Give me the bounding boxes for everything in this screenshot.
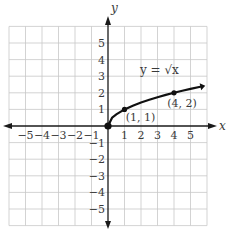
y-tick-label: −2 xyxy=(89,153,105,166)
curve-arrowhead-icon xyxy=(200,83,206,90)
x-tick-label: −3 xyxy=(50,129,66,142)
y-tick-label: 4 xyxy=(98,54,105,67)
x-tick-label: 2 xyxy=(138,129,145,142)
plotted-points: (1, 1)(4, 2) xyxy=(104,90,196,129)
y-tick-label: 2 xyxy=(98,87,105,100)
y-tick-label: −4 xyxy=(89,186,105,199)
data-point xyxy=(171,90,176,95)
x-tick-label: 4 xyxy=(171,129,178,142)
point-label: (4, 2) xyxy=(167,97,197,110)
sqrt-function-graph: −5−4−3−2−11234554321−1−2−3−4−5 (1, 1)(4,… xyxy=(0,0,226,229)
x-axis-right-arrow-icon xyxy=(208,123,217,129)
y-axis-label: y xyxy=(110,1,118,15)
x-tick-label: −4 xyxy=(34,129,50,142)
data-point xyxy=(104,122,111,129)
y-axis-down-arrow-icon xyxy=(105,221,111,229)
y-tick-label: 3 xyxy=(98,70,105,83)
x-tick-label: −2 xyxy=(67,129,83,142)
function-label: y = √x xyxy=(139,63,179,77)
x-tick-label: −5 xyxy=(17,129,33,142)
x-tick-label: 1 xyxy=(121,129,128,142)
x-tick-label: 5 xyxy=(187,129,194,142)
x-axis-label: x xyxy=(219,119,226,133)
y-tick-label: 1 xyxy=(98,103,105,116)
y-tick-label: 5 xyxy=(98,37,105,50)
y-tick-label: −3 xyxy=(89,170,105,183)
point-label: (1, 1) xyxy=(126,111,156,124)
x-axis-left-arrow-icon xyxy=(3,123,12,129)
y-axis-up-arrow-icon xyxy=(105,16,111,25)
x-tick-label: 3 xyxy=(154,129,161,142)
y-tick-label: −5 xyxy=(89,203,105,216)
y-tick-label: −1 xyxy=(89,137,105,150)
